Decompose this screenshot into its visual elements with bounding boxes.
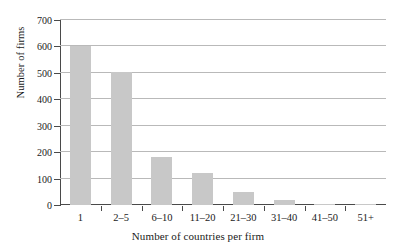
y-axis-tick-label: 400 — [6, 94, 52, 105]
x-axis-title: Number of countries per firm — [0, 230, 396, 242]
gridline — [60, 98, 386, 99]
x-axis-tick — [264, 206, 265, 211]
gridline — [60, 125, 386, 126]
bar — [111, 72, 132, 205]
y-axis-tick-label: 500 — [6, 67, 52, 78]
x-axis-tick — [142, 206, 143, 211]
plot-area — [60, 20, 386, 205]
y-axis-tick-label: 200 — [6, 147, 52, 158]
bar — [314, 204, 335, 205]
gridline — [60, 72, 386, 73]
bar — [274, 200, 295, 205]
x-axis-tick — [223, 206, 224, 211]
bar — [151, 157, 172, 205]
gridline — [60, 178, 386, 179]
x-axis-tick — [345, 206, 346, 211]
x-axis-tick — [101, 206, 102, 211]
bar — [70, 46, 91, 205]
bar — [192, 173, 213, 205]
x-axis-baseline — [60, 204, 386, 205]
gridline — [60, 19, 386, 20]
x-axis-tick — [182, 206, 183, 211]
gridline — [60, 151, 386, 152]
y-axis-tick-label: 0 — [6, 200, 52, 211]
bar — [233, 192, 254, 205]
gridline — [60, 45, 386, 46]
x-axis-tick-label: 51+ — [336, 212, 396, 223]
x-axis-tick — [305, 206, 306, 211]
y-axis-tick-label: 100 — [6, 173, 52, 184]
y-axis-tick-label: 700 — [6, 15, 52, 26]
bar-chart: Number of firms 0100200300400500600700 1… — [0, 0, 396, 252]
y-axis-tick-label: 300 — [6, 120, 52, 131]
y-axis-tick-label: 600 — [6, 41, 52, 52]
bar — [355, 204, 376, 205]
